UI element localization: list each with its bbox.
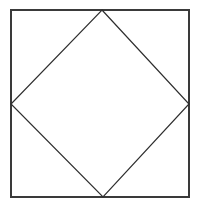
figure-background — [0, 0, 203, 210]
geometry-figure-svg — [0, 0, 203, 210]
geometry-figure-canvas — [0, 0, 203, 210]
